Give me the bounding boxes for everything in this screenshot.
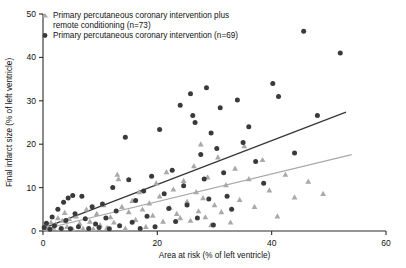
data-point [200,195,206,200]
data-point [315,113,320,118]
data-point [274,213,280,218]
data-point [228,219,234,224]
data-point [84,206,90,211]
data-point [173,219,178,224]
x-tick-label: 0 [41,238,46,248]
data-point [87,219,93,224]
data-point [202,176,207,181]
data-point [221,170,226,175]
data-point [149,174,154,179]
legend-marker-circle [43,33,48,38]
data-point [55,215,61,220]
data-point [108,214,114,219]
data-point [188,91,193,96]
data-point [218,209,224,214]
data-point [260,157,266,162]
data-point [164,169,170,174]
data-point [153,224,158,229]
data-point [126,209,132,214]
data-point [237,197,243,202]
data-point [292,150,297,155]
data-point [122,225,128,230]
data-point [111,219,117,224]
data-point [209,130,214,135]
scatter-plot: 010203040500204060Area at risk (% of lef… [0,0,406,268]
data-point [206,196,211,201]
data-point [44,221,49,226]
data-point [61,200,66,205]
x-tick-label: 60 [381,238,391,248]
data-point [212,202,218,207]
data-point [79,194,84,199]
data-point [47,227,52,232]
data-point [261,181,266,186]
data-point [117,223,122,228]
data-point [73,211,78,216]
y-tick-label: 20 [27,139,37,149]
data-point [50,215,55,220]
data-point [52,223,57,228]
legend-label-intervention: Primary percutaneous coronary interventi… [53,31,238,40]
data-point [140,206,146,211]
data-point [305,179,311,184]
data-point [235,97,240,102]
data-point [157,127,162,132]
x-axis-title: Area at risk (% of left ventricle) [159,251,271,260]
data-point [94,211,100,216]
data-point [83,216,88,221]
data-point [100,202,105,207]
data-point [246,124,251,129]
data-point [232,166,238,171]
data-point [166,206,171,211]
data-point [59,226,64,231]
data-point [145,214,150,219]
data-point [211,222,216,227]
chart-figure: 010203040500204060Area at risk (% of lef… [0,0,406,268]
data-point [123,135,128,140]
data-point [270,81,275,86]
legend-label-intervention-plus-rc-line1: Primary percutaneous coronary interventi… [53,11,229,20]
data-point [150,212,156,217]
data-point [282,172,288,177]
x-tick-label: 20 [153,238,163,248]
data-point [253,159,258,164]
data-point [229,207,234,212]
y-tick-label: 10 [27,183,37,193]
data-point [68,226,73,231]
y-tick-label: 50 [27,9,37,19]
data-point [66,196,71,201]
data-point [107,226,112,231]
data-point [196,208,202,213]
data-point [114,209,119,214]
data-point [241,140,246,145]
data-point [188,218,194,223]
data-point [42,225,47,230]
data-point [130,220,135,225]
data-point [110,185,115,190]
data-point [225,194,230,199]
data-point [160,219,166,224]
data-point [204,85,209,90]
data-point [185,202,190,207]
y-tick-label: 0 [31,226,36,236]
data-point [103,215,108,220]
data-point [170,168,175,173]
data-point [126,177,131,182]
data-point [133,198,138,203]
data-point [214,146,219,151]
data-point [276,94,281,99]
data-point [181,178,187,183]
y-axis-title: Final infarct size (% of left ventricle) [5,58,14,187]
data-point [55,207,60,212]
data-point [86,226,91,231]
data-point [162,191,167,196]
data-point [198,141,204,146]
data-point [218,105,223,110]
data-point [97,225,102,230]
data-point [170,186,176,191]
data-point [198,152,203,157]
data-point [157,193,163,198]
data-point [202,214,208,219]
data-point [90,226,96,231]
data-point [338,51,343,56]
